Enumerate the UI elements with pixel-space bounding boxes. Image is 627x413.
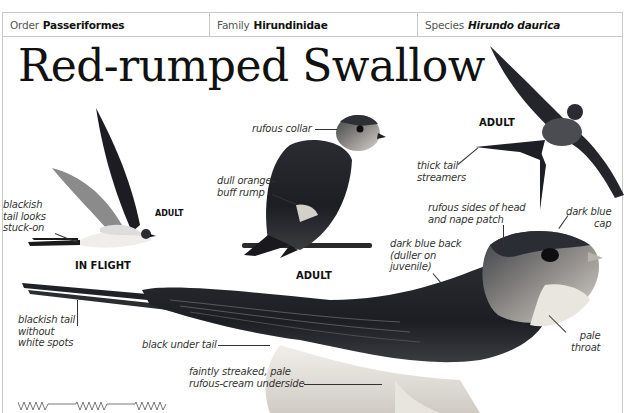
annotation-line: dark blue back xyxy=(390,238,461,250)
perched-adult-caption: ADULT xyxy=(296,270,332,281)
annotation-line: rufous sides of head xyxy=(428,202,525,214)
in-flight-bird-icon xyxy=(28,108,156,248)
bird-illustrations xyxy=(0,0,627,413)
annotation-line: and nape patch xyxy=(428,214,525,226)
annotation-line: throat xyxy=(571,342,600,354)
leader-line xyxy=(218,345,270,346)
main-bird-photo-icon xyxy=(22,231,603,413)
annotation-line: pale xyxy=(571,330,600,342)
annotation-blackish-tail: blackish tail without white spots xyxy=(18,314,75,349)
annotation-rufous-collar: rufous collar xyxy=(252,123,312,135)
leader-line xyxy=(304,384,382,385)
annotation-line: rufous-cream underside xyxy=(189,378,304,390)
in-flight-adult-caption: ADULT xyxy=(155,209,184,218)
annotation-line: dull orange- xyxy=(217,175,275,187)
annotation-line: dark blue xyxy=(566,206,611,218)
annotation-line: (duller on xyxy=(390,250,461,262)
annotation-black-under-tail: black under tail xyxy=(142,339,217,351)
annotation-line: blackish xyxy=(3,199,46,211)
annotation-line: tail looks xyxy=(3,211,46,223)
annotation-line: blackish tail xyxy=(18,314,75,326)
annotation-line: juvenile) xyxy=(390,261,461,273)
annotation-line: buff rump xyxy=(217,187,275,199)
annotation-line: cap xyxy=(566,218,611,230)
annotation-line: streamers xyxy=(417,172,466,184)
in-flight-caption: IN FLIGHT xyxy=(75,260,131,271)
leader-line xyxy=(315,129,337,130)
zigzag-divider-icon xyxy=(18,400,238,412)
annotation-rufous-head: rufous sides of head and nape patch xyxy=(428,202,525,225)
flying-adult-caption: ADULT xyxy=(479,117,515,128)
annotation-dark-blue-back: dark blue back (duller on juvenile) xyxy=(390,238,461,273)
annotation-tail-stuck-on: blackish tail looks stuck-on xyxy=(3,199,46,234)
annotation-pale-throat: pale throat xyxy=(571,330,600,353)
annotation-line: without xyxy=(18,326,75,338)
leader-line xyxy=(77,300,78,326)
annotation-underside: faintly streaked, pale rufous-cream unde… xyxy=(189,366,304,389)
annotation-dark-blue-cap: dark blue cap xyxy=(566,206,611,229)
annotation-line: faintly streaked, pale xyxy=(189,366,304,378)
annotation-line: white spots xyxy=(18,337,75,349)
leader-line xyxy=(503,225,504,247)
flying-adult-bird-icon xyxy=(475,46,624,210)
annotation-rump: dull orange- buff rump xyxy=(217,175,275,198)
annotation-line: stuck-on xyxy=(3,222,46,234)
